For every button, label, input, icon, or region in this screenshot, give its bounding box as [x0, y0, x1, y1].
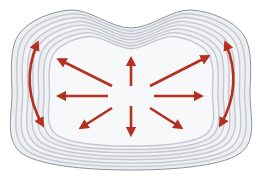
contour-rings	[10, 10, 251, 170]
bean-cushion-illustration	[0, 0, 263, 182]
pressure-diagram	[0, 0, 263, 182]
